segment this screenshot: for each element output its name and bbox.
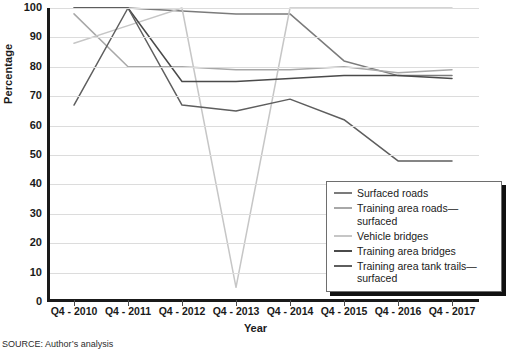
y-axis-tick-value: 40 [30,177,42,189]
x-axis-title: Year [0,322,511,334]
y-axis-tick-value: 100 [24,1,42,13]
series-line [74,8,452,76]
y-axis-tick-value: 0 [36,295,42,307]
legend-item[interactable]: Vehicle bridges [333,230,497,243]
legend-item-label: Training area tank trails—surfaced [357,260,497,285]
y-axis-tick-value: 90 [30,30,42,42]
y-axis-tick-value: 60 [30,119,42,131]
legend-swatch-icon [334,207,352,209]
legend-item-label: Surfaced roads [357,187,497,200]
x-axis-line [47,299,479,302]
legend-item[interactable]: Training area roads—surfaced [333,202,497,227]
legend-item-label: Vehicle bridges [357,230,497,243]
gridline [47,67,479,68]
x-axis-tick-label: Q4 - 2013 [213,305,260,317]
y-axis-tick-value: 70 [30,89,42,101]
x-axis-tick-label: Q4 - 2012 [159,305,206,317]
legend-item[interactable]: Training area bridges [333,245,497,258]
series-line [74,8,452,161]
x-axis-title-text: Year [244,322,267,334]
legend-swatch-icon [334,192,352,194]
gridline [47,37,479,38]
gridline [47,155,479,156]
gridline [47,8,479,9]
x-axis-tick-label: Q4 - 2016 [375,305,422,317]
gridline [47,126,479,127]
y-axis-line [47,8,50,302]
y-axis-tick-value: 10 [30,266,42,278]
legend-item[interactable]: Surfaced roads [333,187,497,200]
x-axis-tick-label: Q4 - 2011 [105,305,151,317]
y-axis-tick-value: 30 [30,207,42,219]
y-axis-tick-value: 80 [30,60,42,72]
legend-swatch-icon [334,235,352,237]
x-axis-tick-label: Q4 - 2015 [321,305,368,317]
legend-item[interactable]: Training area tank trails—surfaced [333,260,497,285]
y-axis-title-text: Percentage [2,4,14,104]
legend-item-label: Training area roads—surfaced [357,202,497,227]
gridline [47,96,479,97]
x-axis-tick-label: Q4 - 2017 [429,305,476,317]
y-axis-title: Percentage [2,4,14,104]
x-axis-tick-label: Q4 - 2014 [267,305,314,317]
series-line [74,14,452,73]
legend-swatch-icon [334,265,352,267]
legend-item-label: Training area bridges [357,245,497,258]
line-chart: Percentage Year Surfaced roadsTraining a… [0,0,511,350]
y-axis-tick-value: 50 [30,148,42,160]
legend: Surfaced roadsTraining area roads—surfac… [326,181,502,292]
x-axis-tick-label: Q4 - 2010 [51,305,98,317]
legend-swatch-icon [334,250,352,252]
y-axis-tick-value: 20 [30,236,42,248]
source-note: SOURCE: Author’s analysis [2,339,113,349]
